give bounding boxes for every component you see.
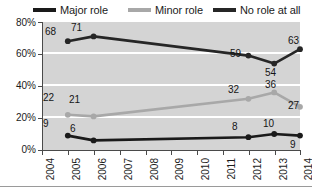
line-chart: Major role Minor role No role at all 80%… bbox=[0, 0, 312, 195]
data-point-no-role-at-all-2006 bbox=[91, 34, 97, 40]
value-label-major-2013: 10 bbox=[263, 119, 274, 129]
value-label-norole-2005: 68 bbox=[45, 27, 56, 37]
x-tick-2006 bbox=[94, 151, 95, 155]
x-tick-2012 bbox=[249, 151, 250, 155]
series-line-no-role-at-all bbox=[68, 36, 300, 63]
y-axis-labels: 80% 60% 40% 20% 0% bbox=[0, 0, 36, 195]
value-label-major-2014: 9 bbox=[290, 140, 296, 150]
x-tick-label-2009: 2009 bbox=[175, 158, 185, 180]
footer-divider bbox=[0, 186, 312, 187]
legend-label-major-role: Major role bbox=[60, 5, 108, 16]
data-point-major-role-2014 bbox=[297, 133, 303, 139]
x-tick-2013 bbox=[275, 151, 276, 155]
y-tick-label-60: 60% bbox=[2, 49, 36, 59]
y-tick-label-80: 80% bbox=[2, 18, 36, 28]
data-point-minor-role-2006 bbox=[91, 114, 97, 120]
data-point-minor-role-2005 bbox=[65, 112, 71, 118]
chart-legend: Major role Minor role No role at all bbox=[0, 2, 312, 18]
legend-swatch-minor-role bbox=[128, 8, 151, 12]
y-tick-label-0: 0% bbox=[2, 145, 36, 155]
value-label-major-2005: 9 bbox=[43, 119, 49, 129]
data-point-minor-role-2013 bbox=[271, 90, 277, 96]
data-point-major-role-2006 bbox=[91, 138, 97, 144]
x-tick-2011 bbox=[223, 151, 224, 155]
value-label-norole-2006: 71 bbox=[71, 23, 82, 33]
x-tick-2004 bbox=[42, 151, 43, 155]
legend-item-minor-role: Minor role bbox=[128, 2, 203, 18]
value-label-major-2012: 8 bbox=[232, 122, 238, 132]
legend-label-no-role-at-all: No role at all bbox=[240, 5, 300, 16]
series-plot bbox=[42, 22, 300, 150]
data-point-major-role-2013 bbox=[271, 131, 277, 137]
x-tick-2008 bbox=[146, 151, 147, 155]
y-tick-label-20: 20% bbox=[2, 113, 36, 123]
value-label-minor-2014: 27 bbox=[288, 101, 299, 111]
value-label-minor-2013: 36 bbox=[265, 80, 276, 90]
value-label-minor-2012: 32 bbox=[228, 85, 239, 95]
x-tick-2009 bbox=[171, 151, 172, 155]
series-line-major-role bbox=[68, 134, 300, 140]
value-label-norole-2013: 54 bbox=[265, 68, 276, 78]
x-tick-label-2014: 2014 bbox=[304, 158, 312, 180]
legend-swatch-no-role-at-all bbox=[213, 8, 236, 12]
value-label-norole-2012: 59 bbox=[230, 49, 241, 59]
series-line-minor-role bbox=[68, 92, 300, 116]
legend-item-major-role: Major role bbox=[33, 2, 108, 18]
x-tick-2007 bbox=[120, 151, 121, 155]
data-point-no-role-at-all-2005 bbox=[65, 38, 71, 44]
y-tick-label-40: 40% bbox=[2, 81, 36, 91]
data-point-major-role-2012 bbox=[246, 134, 252, 140]
x-tick-2014 bbox=[300, 151, 301, 155]
data-point-minor-role-2012 bbox=[246, 96, 252, 102]
data-point-no-role-at-all-2013 bbox=[271, 61, 277, 67]
value-label-minor-2006: 21 bbox=[69, 95, 80, 105]
legend-swatch-major-role bbox=[33, 8, 56, 12]
x-tick-label-2008: 2008 bbox=[150, 158, 160, 180]
x-tick-2005 bbox=[68, 151, 69, 155]
x-tick-label-2006: 2006 bbox=[98, 158, 108, 180]
x-tick-label-2007: 2007 bbox=[124, 158, 134, 180]
x-tick-label-2004: 2004 bbox=[46, 158, 56, 180]
data-point-no-role-at-all-2012 bbox=[246, 53, 252, 59]
x-tick-label-2012: 2012 bbox=[253, 158, 263, 180]
value-label-minor-2005: 22 bbox=[43, 93, 54, 103]
x-tick-label-2011: 2011 bbox=[227, 158, 237, 180]
value-label-major-2006: 6 bbox=[70, 124, 76, 134]
x-tick-label-2010: 2010 bbox=[201, 158, 211, 180]
legend-item-no-role-at-all: No role at all bbox=[213, 2, 300, 18]
x-tick-label-2013: 2013 bbox=[279, 158, 289, 180]
x-tick-label-2005: 2005 bbox=[72, 158, 82, 180]
value-label-norole-2014: 63 bbox=[288, 36, 299, 46]
x-tick-2010 bbox=[197, 151, 198, 155]
legend-label-minor-role: Minor role bbox=[155, 5, 203, 16]
data-point-no-role-at-all-2014 bbox=[297, 46, 303, 52]
